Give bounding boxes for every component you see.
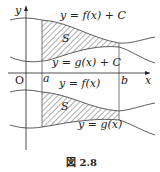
b-label: b	[121, 74, 128, 87]
y-axis-label: y	[14, 4, 22, 17]
label-f: y = f(x)	[58, 77, 100, 90]
area-translation-diagram: y x O a b y = f(x) + C S y = g(x) + C y …	[0, 0, 160, 172]
label-g-plus-c: y = g(x) + C	[51, 56, 121, 69]
label-S-lower: S	[61, 100, 69, 113]
figure-caption: 図 2.8	[66, 157, 97, 168]
a-label: a	[43, 72, 50, 85]
x-axis-label: x	[145, 74, 152, 87]
y-axis-arrow-icon	[24, 6, 28, 11]
label-S-upper: S	[62, 32, 70, 45]
label-g: y = g(x)	[77, 118, 122, 131]
label-f-plus-c: y = f(x) + C	[59, 9, 126, 22]
origin-label: O	[15, 74, 24, 87]
